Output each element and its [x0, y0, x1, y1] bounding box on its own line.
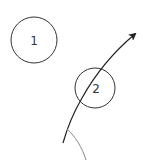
diagram-canvas: 1 2: [0, 0, 143, 168]
gray-arc: [67, 129, 86, 160]
node-2: 2: [75, 68, 115, 108]
node-2-label: 2: [92, 82, 100, 96]
node-1: 1: [11, 17, 57, 63]
node-1-label: 1: [30, 34, 38, 48]
